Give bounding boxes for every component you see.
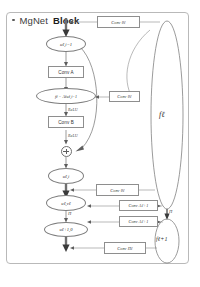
circled-plus-icon [61, 146, 72, 157]
arrow-convr3-to-unext [87, 220, 119, 224]
arrow-unext-out [62, 236, 69, 252]
conv-b-box[interactable]: Conv B [48, 116, 84, 128]
f-ell-ellipse [151, 21, 183, 209]
conv-a-next-box[interactable]: Conv Aℓ+1 [119, 216, 158, 227]
arrow-convtop-to-trunk [69, 20, 97, 24]
arrow-convr2-to-uv [87, 204, 119, 208]
node-residual: fℓ − Aℓuℓ,i−1 [36, 88, 96, 104]
pi-label-right: Π [169, 209, 172, 214]
f-ell-feed-curve [127, 30, 150, 97]
arrow-into-u-prev [62, 18, 69, 37]
mgnet-block-diagram: MgNet Block [0, 0, 200, 287]
conv-theta-right1-box[interactable]: Conv θℓ [96, 184, 139, 196]
node-u-ell-nu: uℓ,νℓ [46, 195, 86, 211]
conv-a-box[interactable]: Conv A [48, 66, 84, 78]
conv-a-next-bottom-box[interactable]: Conv Πℓ [104, 242, 146, 254]
connector-layer [0, 0, 200, 287]
conv-theta-mid-box[interactable]: Conv θℓ [109, 91, 140, 102]
pi-label-small: Π [68, 211, 71, 216]
conv-theta-top-box[interactable]: Conv θℓ [97, 16, 140, 28]
arrow-oplus-to-ui [64, 157, 68, 169]
node-u-prev: uℓ,i−1 [46, 36, 86, 52]
relu-label-2: ReLU [68, 133, 78, 138]
conv-theta-right2-box[interactable]: Conv Aℓ+1 [119, 200, 158, 211]
node-f-ell-label: fℓ [159, 110, 165, 119]
node-u-next: uℓ+1,0 [44, 222, 88, 237]
relu-label-1: ReLU [68, 107, 78, 112]
arrow-uprev-to-convA [64, 52, 68, 67]
node-f-next-label: fℓ+1 [156, 236, 168, 242]
node-u-i: uℓ,i [48, 168, 84, 184]
arrow-convr1-to-trunk [70, 188, 96, 192]
arrow-convbottom-to-trunk [70, 246, 104, 250]
line-convr2-to-fell [157, 204, 162, 207]
